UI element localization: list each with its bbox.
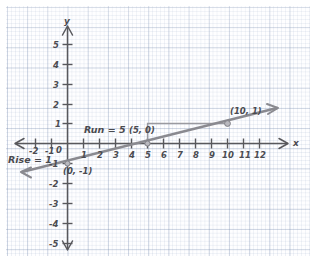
y-tick-label-4: 4 (53, 61, 59, 70)
y-tick-label-neg3: -3 (49, 200, 58, 209)
point-marker-10-1 (225, 121, 231, 127)
rise-annotation-label: Rise = 1 (8, 155, 52, 165)
run-annotation-label: Run = 5 (84, 125, 126, 135)
x-tick-label-2: 2 (97, 151, 103, 160)
slope-rise-run-construction (148, 124, 228, 144)
y-tick-label-3: 3 (53, 81, 59, 90)
y-tick-label-neg2: -2 (49, 180, 58, 189)
point-label-5-0: (5, 0) (129, 126, 155, 135)
x-tick-label-11: 11 (239, 151, 251, 160)
y-tick-label-neg5: -5 (49, 240, 58, 249)
y-tick-label-2: 2 (53, 101, 59, 110)
x-tick-label-8: 8 (193, 151, 199, 160)
plotted-line (22, 108, 277, 172)
x-tick-label-3: 3 (113, 151, 119, 160)
coordinate-plane-plot (0, 0, 316, 260)
line-left-arrow-icon (21, 168, 31, 178)
point-label-10-1: (10, 1) (230, 107, 262, 116)
point-marker-5-0 (145, 141, 150, 146)
x-tick-label-1: 1 (81, 151, 87, 160)
x-tick-label-7: 7 (177, 151, 183, 160)
y-axis-label: y (64, 17, 70, 26)
graph-screenshot: y x 0 -2 -1 1 2 3 4 5 6 7 8 9 10 11 12 5… (0, 0, 316, 260)
x-tick-label-10: 10 (222, 151, 234, 160)
x-tick-label-5: 5 (145, 151, 151, 160)
point-label-0-neg1: (0, -1) (63, 167, 92, 176)
x-tick-label-12: 12 (254, 151, 266, 160)
x-tick-label-4: 4 (129, 151, 135, 160)
y-tick-label-5: 5 (53, 41, 59, 50)
y-tick-label-neg4: -4 (49, 220, 58, 229)
origin-label: 0 (56, 146, 62, 155)
x-tick-label-9: 9 (209, 151, 215, 160)
y-tick-label-1: 1 (55, 120, 61, 129)
x-tick-label-6: 6 (161, 151, 167, 160)
x-axis-label: x (293, 139, 299, 148)
